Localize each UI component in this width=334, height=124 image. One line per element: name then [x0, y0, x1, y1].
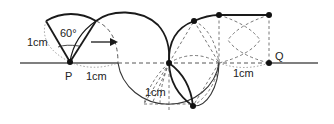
point-arc-1: [191, 18, 197, 24]
label-radius-lower-middle: 1cm: [145, 86, 166, 98]
lower-semicircle: [118, 63, 219, 104]
point-center: [166, 60, 172, 66]
label-radius-left: 1cm: [27, 36, 48, 48]
arrow-icon: [91, 38, 118, 46]
label-p: P: [65, 70, 72, 82]
point-top-right: [266, 12, 272, 18]
locus-arc-top: [96, 12, 169, 63]
rolling-sector-diagram: P Q 60° 1cm 1cm 1cm 1cm: [0, 0, 334, 124]
point-p: [67, 59, 73, 65]
lens-right: [169, 63, 193, 106]
label-radius-right: 1cm: [233, 67, 254, 79]
point-q: [266, 60, 272, 66]
label-angle: 60°: [60, 27, 77, 39]
label-q: Q: [275, 50, 284, 62]
lens-left: [169, 63, 193, 106]
label-radius-bottom-p: 1cm: [86, 70, 107, 82]
point-arc-2: [216, 12, 222, 18]
point-bottom: [190, 103, 196, 109]
box-construction: [219, 15, 269, 63]
